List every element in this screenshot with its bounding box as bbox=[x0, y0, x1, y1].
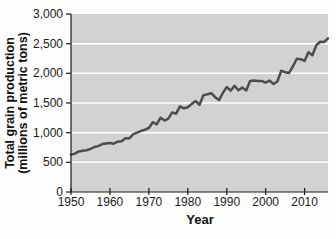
y-tick-label-500: 500 bbox=[43, 155, 63, 169]
y-tick-label-2,000: 2,000 bbox=[33, 66, 63, 80]
y-tick-label-1,000: 1,000 bbox=[33, 126, 63, 140]
y-axis-title-line2: (millions of metric tons) bbox=[16, 32, 30, 174]
x-tick-label-1960: 1960 bbox=[97, 195, 124, 209]
x-tick-label-1980: 1980 bbox=[174, 195, 201, 209]
x-tick-label-2010: 2010 bbox=[291, 195, 318, 209]
x-tick-label-2000: 2000 bbox=[252, 195, 279, 209]
chart-layer: 05001,0001,5002,0002,5003,00019501960197… bbox=[33, 7, 328, 209]
x-tick-label-1950: 1950 bbox=[58, 195, 85, 209]
y-tick-label-3,000: 3,000 bbox=[33, 7, 63, 21]
grain-production-chart: 05001,0001,5002,0002,5003,00019501960197… bbox=[0, 0, 336, 239]
y-tick-label-2,500: 2,500 bbox=[33, 37, 63, 51]
x-tick-label-1970: 1970 bbox=[136, 195, 163, 209]
grain-production-figure: 05001,0001,5002,0002,5003,00019501960197… bbox=[0, 0, 336, 239]
x-tick-label-1990: 1990 bbox=[213, 195, 240, 209]
y-tick-label-1,500: 1,500 bbox=[33, 96, 63, 110]
x-axis-title: Year bbox=[186, 212, 213, 227]
y-axis-title-line1: Total grain production bbox=[3, 37, 17, 169]
